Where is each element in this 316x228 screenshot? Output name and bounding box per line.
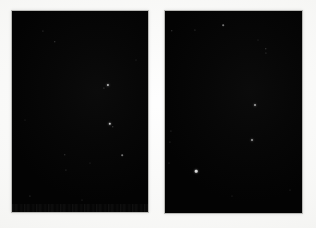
film-grain-left <box>12 11 148 212</box>
image-panel-left[interactable] <box>12 11 148 212</box>
panel-left-content <box>12 11 148 212</box>
film-grain-right <box>165 11 302 213</box>
panel-right-content <box>165 11 302 213</box>
panel-right-label: Right image panel <box>0 0 1 1</box>
image-panel-right[interactable] <box>165 11 302 213</box>
figure-title: Two dark astronomical image plates <box>0 0 1 1</box>
figure-description: Side-by-side pair of near-black rectangu… <box>0 0 1 1</box>
bottom-noise-band-left <box>12 204 148 212</box>
figure-root: Two dark astronomical image plates Side-… <box>0 0 316 228</box>
panel-left-label: Left image panel <box>0 0 1 1</box>
